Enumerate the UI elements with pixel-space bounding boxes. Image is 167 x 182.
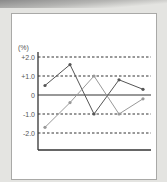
data-point-marker <box>117 112 120 115</box>
data-point-marker <box>92 112 95 115</box>
data-point-marker <box>43 84 46 87</box>
data-point-marker <box>117 78 120 81</box>
data-point-marker <box>141 88 144 91</box>
data-point-marker <box>92 74 95 77</box>
data-point-marker <box>68 63 71 66</box>
y-tick-label: -2.0 <box>23 130 35 137</box>
line-chart: (%) +2.0+1.00-1.0-2.0 <box>0 0 167 182</box>
y-tick-label: -1.0 <box>23 111 35 118</box>
y-tick-label: +1.0 <box>21 73 35 80</box>
data-point-marker <box>68 101 71 104</box>
data-point-marker <box>43 126 46 129</box>
series-dark-line <box>45 65 143 114</box>
y-tick-label: 0 <box>31 92 35 99</box>
data-series <box>43 63 144 129</box>
y-unit-label: (%) <box>18 44 29 52</box>
y-tick-labels: +2.0+1.00-1.0-2.0 <box>21 54 35 137</box>
y-tick-label: +2.0 <box>21 54 35 61</box>
data-point-marker <box>141 97 144 100</box>
